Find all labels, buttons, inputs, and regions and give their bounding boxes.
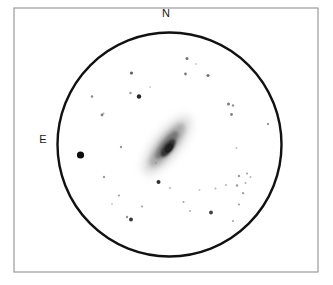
star-point: [137, 94, 141, 98]
star-point: [103, 113, 105, 115]
star-point: [77, 151, 84, 158]
cardinal-label-east: E: [39, 133, 46, 145]
star-point: [189, 210, 191, 212]
star-point: [103, 176, 105, 178]
star-point: [130, 71, 133, 74]
star-point: [250, 176, 252, 178]
star-point: [238, 203, 240, 205]
star-point: [111, 203, 113, 205]
star-point: [184, 73, 187, 76]
sketch-canvas: N E: [0, 0, 333, 285]
star-point: [215, 188, 217, 190]
star-point: [236, 147, 238, 149]
star-point: [267, 123, 269, 125]
eyepiece-sketch-figure: N E: [0, 0, 333, 285]
star-point: [225, 184, 227, 186]
star-point: [157, 180, 161, 184]
star-point: [186, 57, 189, 60]
star-point: [195, 63, 197, 65]
star-point: [246, 172, 248, 174]
star-point: [207, 74, 210, 77]
star-point: [230, 113, 233, 116]
star-point: [227, 103, 230, 106]
star-point: [129, 218, 133, 222]
star-point: [182, 201, 184, 203]
star-point: [232, 104, 234, 106]
star-point: [199, 189, 201, 191]
star-point: [232, 220, 234, 222]
star-point: [236, 184, 238, 186]
star-point: [120, 146, 122, 148]
star-point: [129, 92, 131, 94]
star-point: [169, 187, 171, 189]
cardinal-label-north: N: [162, 7, 170, 19]
star-point: [209, 211, 213, 215]
star-point: [91, 95, 94, 98]
star-point: [245, 182, 247, 184]
star-point: [149, 86, 151, 88]
star-point: [238, 175, 240, 177]
star-point: [118, 194, 120, 196]
star-point: [141, 205, 143, 207]
star-point: [155, 162, 157, 164]
star-point: [243, 193, 245, 195]
star-point: [126, 216, 128, 218]
